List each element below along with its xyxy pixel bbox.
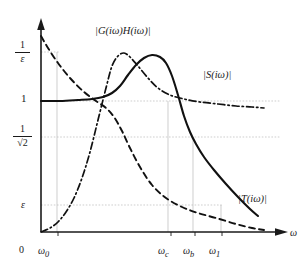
figure-container: |G(iω)H(iω)| |S(iω)| |T(iω)| 1 ε 1 1 √2 …	[0, 0, 306, 269]
x-tick-label-zero: 0	[19, 245, 24, 255]
x-tick-label-wc: ωc	[158, 246, 169, 259]
y-axis-arrow-icon	[37, 18, 45, 30]
curve-label-complementary-sensitivity: |T(iω)|	[238, 194, 267, 205]
x-tick-label-w0: ω0	[38, 246, 49, 259]
y-tick-label-one: 1	[21, 93, 27, 104]
vertical-gridlines	[57, 52, 221, 232]
x-axis-arrow-icon	[275, 228, 288, 236]
y-tick-inv-eps-denominator: ε	[20, 54, 26, 65]
curve-open-loop-gain	[41, 36, 264, 230]
x-tick-wc-base: ω	[158, 245, 165, 256]
x-tick-wb-base: ω	[183, 245, 190, 256]
y-tick-label-inv-eps: 1 ε	[15, 40, 30, 64]
x-tick-zero-text: 0	[19, 244, 24, 255]
y-tick-inv-eps-numerator: 1	[19, 40, 26, 51]
y-tick-label-inv-sqrt2: 1 √2	[13, 124, 32, 148]
x-tick-w1-base: ω	[209, 245, 216, 256]
x-tick-w0-base: ω	[38, 245, 45, 256]
x-tick-label-wb: ωb	[183, 246, 194, 259]
x-tick-label-w1: ω1	[209, 246, 220, 259]
curve-label-open-loop-gain: |G(iω)H(iω)|	[95, 26, 151, 37]
y-tick-label-eps: ε	[21, 200, 25, 210]
x-tick-w0-sub: 0	[45, 250, 49, 259]
x-axis-label: ω	[290, 228, 297, 238]
horizontal-gridlines	[41, 52, 280, 205]
y-tick-inv-sqrt2-denominator: √2	[16, 138, 29, 149]
curve-label-sensitivity: |S(iω)|	[203, 70, 231, 81]
data-curves	[41, 36, 264, 232]
sensitivity-plot-svg	[0, 0, 306, 269]
x-tick-wc-sub: c	[165, 250, 169, 259]
x-tick-w1-sub: 1	[216, 250, 220, 259]
x-tick-wb-sub: b	[190, 250, 194, 259]
y-tick-inv-sqrt2-numerator: 1	[19, 124, 26, 135]
